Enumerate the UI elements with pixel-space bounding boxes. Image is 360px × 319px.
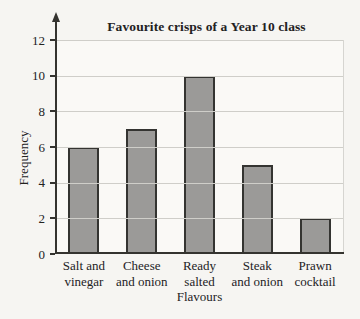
- plot-area: [55, 40, 344, 254]
- plot-right-border: [343, 40, 344, 254]
- category-label-line: and onion: [113, 274, 171, 290]
- gridline-2: [55, 218, 344, 219]
- y-tick-label-2: 2: [39, 210, 46, 227]
- y-axis-line: [55, 22, 57, 254]
- y-tick-label-0: 0: [39, 246, 46, 263]
- bar-chart-figure: Favourite crisps of a Year 10 class Freq…: [0, 0, 360, 319]
- y-tick-label-6: 6: [39, 139, 46, 156]
- category-label-line: Cheese: [113, 258, 171, 274]
- category-label-ready-salted: Readysalted: [171, 258, 229, 289]
- y-axis-ticks: 024681012: [0, 40, 55, 254]
- gridline-8: [55, 111, 344, 112]
- category-label-salt-and-vinegar: Salt andvinegar: [55, 258, 113, 289]
- bar-steak-and-onion: [242, 165, 273, 254]
- y-tick-label-12: 12: [32, 32, 45, 49]
- gridline-4: [55, 183, 344, 184]
- chart-title: Favourite crisps of a Year 10 class: [55, 19, 358, 35]
- category-label-line: Steak: [228, 258, 286, 274]
- gridline-12: [55, 40, 344, 41]
- x-axis-category-labels: Salt andvinegarCheeseand onionReadysalte…: [55, 258, 344, 289]
- x-axis-line: [55, 252, 344, 254]
- category-label-line: Salt and: [55, 258, 113, 274]
- category-label-line: vinegar: [55, 274, 113, 290]
- category-label-steak-and-onion: Steakand onion: [228, 258, 286, 289]
- category-label-cheese-and-onion: Cheeseand onion: [113, 258, 171, 289]
- bar-salt-and-vinegar: [68, 147, 99, 254]
- bar-prawn-cocktail: [300, 218, 331, 254]
- gridline-10: [55, 76, 344, 77]
- category-label-prawn-cocktail: Prawncocktail: [286, 258, 344, 289]
- y-axis-arrow-icon: [52, 12, 60, 22]
- y-tick-label-4: 4: [39, 174, 46, 191]
- gridline-6: [55, 147, 344, 148]
- y-tick-label-8: 8: [39, 103, 46, 120]
- category-label-line: cocktail: [286, 274, 344, 290]
- y-tick-label-10: 10: [32, 67, 45, 84]
- category-label-line: salted: [171, 274, 229, 290]
- category-label-line: and onion: [228, 274, 286, 290]
- bar-ready-salted: [184, 76, 215, 254]
- category-label-line: Ready: [171, 258, 229, 274]
- x-axis-label: Flavours: [55, 289, 344, 305]
- category-label-line: Prawn: [286, 258, 344, 274]
